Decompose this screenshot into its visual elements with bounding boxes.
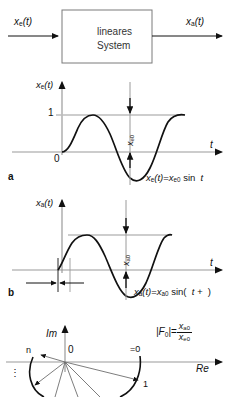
phasor-n-label: n [26,346,31,355]
phasor-im-axis-label: Im [46,329,57,339]
plot-b-equation: xa(t)=xa0 sin( t + ) [134,287,211,298]
figure-root: xe(t) lineares System xa(t) xe(t) 1 0 t … [0,0,230,397]
plot-b-y-axis-label: xa(t) [36,198,53,209]
plot-a-x-axis-label: t [210,140,213,150]
magnitude-fraction: xa0 xe0 [177,322,192,343]
magnitude-lhs: |F [156,326,165,337]
block-label-line2: System [97,39,132,53]
plot-a-origin-label: 0 [54,154,60,164]
plot-a-panel-letter: a [8,172,14,182]
plot-b-amplitude-label: xa0 [122,255,132,266]
phasor-magnitude-equation: |F0|= xa0 xe0 [156,322,192,343]
output-signal-label: xa(t) [186,17,204,28]
plot-b-graphics [12,200,222,300]
phasor-ellipsis-label: ⋮ [10,368,21,378]
plot-a-equation: xe(t)=xe0 sin t [146,173,203,184]
phasor-start-label: =0 [130,345,140,354]
plot-b-x-axis-label: t [210,258,213,268]
phasor-unit-label: 1 [143,380,148,389]
phasor-re-axis-label: Re [196,364,209,374]
block-label-line1: lineares [97,25,132,39]
plot-a-y-tick-label: 1 [48,108,54,118]
plot-a-y-axis-label: xe(t) [36,80,53,91]
input-signal-label: xe(t) [14,17,32,28]
phasor-origin-label: 0 [68,345,74,355]
block-label: lineares System [97,25,132,52]
plot-a-amplitude-label: xe0 [126,135,136,146]
plot-b-panel-letter: b [8,288,14,298]
plot-a-graphics [12,82,222,185]
figure-vector-layer [0,0,230,397]
magnitude-denominator: xe0 [177,333,192,343]
